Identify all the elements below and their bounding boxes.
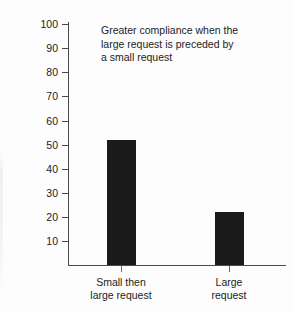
bar-small-then-large-request — [107, 140, 136, 265]
y-tick-mark — [62, 24, 69, 25]
y-tick-label-10: 10 — [32, 236, 58, 246]
y-tick-mark — [62, 145, 69, 146]
bar-chart-figure: Percentage compliance 100 90 80 70 60 50… — [0, 0, 294, 313]
y-tick-mark — [62, 121, 69, 122]
y-tick-label-70: 70 — [32, 91, 58, 101]
y-tick-mark — [62, 48, 69, 49]
y-tick-label-80: 80 — [32, 67, 58, 77]
y-tick-label-50: 50 — [32, 140, 58, 150]
y-tick-mark — [62, 72, 69, 73]
bar-large-request — [215, 212, 244, 265]
x-category-label-large-request: Large request — [184, 276, 274, 301]
y-axis-line — [68, 22, 69, 266]
y-tick-label-20: 20 — [32, 212, 58, 222]
x-axis-line — [68, 265, 286, 266]
y-tick-mark — [62, 241, 69, 242]
y-tick-label-40: 40 — [32, 164, 58, 174]
y-tick-label-100: 100 — [32, 19, 58, 29]
x-category-label-small-then-large-request: Small then large request — [66, 276, 176, 301]
chart-annotation: Greater compliance when the large reques… — [101, 24, 281, 65]
y-tick-mark — [62, 193, 69, 194]
scan-edge-artifact — [0, 150, 3, 300]
y-tick-label-30: 30 — [32, 188, 58, 198]
x-tick-mark — [121, 266, 122, 272]
y-tick-mark — [62, 169, 69, 170]
y-tick-mark — [62, 217, 69, 218]
y-tick-label-90: 90 — [32, 43, 58, 53]
y-tick-label-60: 60 — [32, 116, 58, 126]
y-tick-mark — [62, 96, 69, 97]
x-tick-mark — [229, 266, 230, 272]
